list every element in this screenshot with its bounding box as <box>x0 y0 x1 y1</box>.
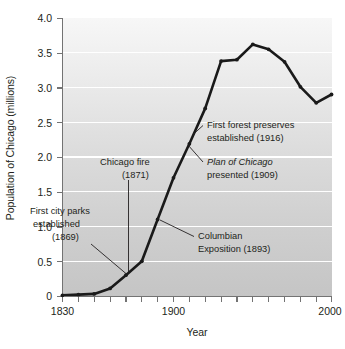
annotation-parks-line-3: (1869) <box>52 232 79 242</box>
y-tick-label-0-5: 0.5 <box>37 256 52 268</box>
annotation-columbian-line-1: Columbian <box>198 231 242 241</box>
y-tick-label-3-5: 3.5 <box>37 47 52 59</box>
annotation-parks-line-2: established <box>33 219 80 229</box>
y-tick-label-1-5: 1.5 <box>37 186 52 198</box>
x-tick-label-1900: 1900 <box>162 305 186 317</box>
annotation-plan-line-2: presented (1909) <box>207 170 278 180</box>
x-tick-label-1830: 1830 <box>51 305 75 317</box>
annotation-forest-line-1: First forest preserves <box>207 120 295 130</box>
annotation-columbian-line-2: Exposition (1893) <box>198 244 270 254</box>
annotation-fire-line-2: (1871) <box>122 170 149 180</box>
chart-figure: Population of Chicago (millions) <box>0 0 345 349</box>
y-axis-ticks <box>57 19 62 297</box>
annotation-fire-line-1: Chicago fire <box>100 157 150 167</box>
annotation-forest-line-2: established (1916) <box>207 133 284 143</box>
x-axis-title-text: Year <box>186 326 207 338</box>
population-line-chart: 4.0 3.5 3.0 2.5 2.0 1.5 1.0 0.5 0 <box>0 0 345 349</box>
x-tick-label-2000: 2000 <box>318 305 342 317</box>
annotation-plan-line-1: Plan of Chicago <box>207 157 273 167</box>
x-axis-title: Year <box>62 326 332 338</box>
y-tick-label-4-0: 4.0 <box>37 12 52 24</box>
y-tick-label-2-5: 2.5 <box>37 117 52 129</box>
y-tick-label-3-0: 3.0 <box>37 82 52 94</box>
annotation-parks-line-1: First city parks <box>30 206 90 216</box>
y-tick-label-2-0: 2.0 <box>37 151 52 163</box>
y-tick-label-0: 0 <box>46 290 52 302</box>
